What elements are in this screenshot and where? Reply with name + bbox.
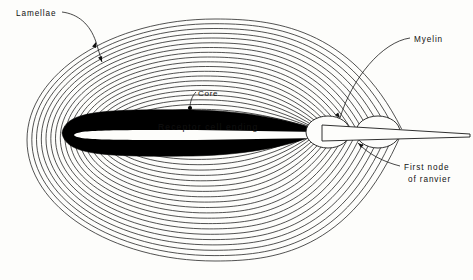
label-core: Core bbox=[198, 89, 218, 98]
label-myelin: Myelin bbox=[414, 35, 443, 44]
label-receptor-cell-ending: Receptor cell ending bbox=[158, 122, 258, 132]
lamellae-arrowhead-up bbox=[92, 42, 96, 48]
lamellae-leader-line bbox=[62, 12, 96, 42]
myelin-leader-line bbox=[340, 38, 410, 118]
pacinian-corpuscle-figure: Lamellae Core Receptor cell ending Myeli… bbox=[0, 0, 473, 280]
core-leader-dot bbox=[188, 106, 192, 110]
label-lamellae: Lamellae bbox=[16, 9, 56, 18]
corpuscle-drawing: Lamellae Core Receptor cell ending Myeli… bbox=[0, 0, 473, 280]
node-of-ranvier-layer bbox=[306, 116, 470, 148]
lamellae-arrowhead-down bbox=[98, 56, 102, 62]
label-first-node-line1: First node bbox=[404, 163, 449, 172]
label-first-node-line2: of ranvier bbox=[408, 175, 451, 184]
